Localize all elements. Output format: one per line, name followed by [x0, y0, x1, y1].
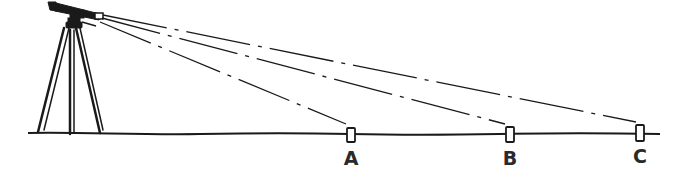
label-point-c: C — [633, 147, 647, 166]
rod-a — [347, 128, 355, 142]
rod-b — [506, 127, 514, 142]
sight-line-b — [102, 18, 505, 124]
sight-lines — [100, 15, 636, 124]
tripod — [38, 28, 103, 134]
rod-c — [636, 125, 644, 141]
surveying-diagram: A B C — [0, 0, 673, 178]
label-point-b: B — [503, 149, 517, 168]
ground-line — [28, 133, 660, 135]
sight-line-c — [103, 15, 636, 122]
label-point-a: A — [344, 149, 359, 168]
level-instrument-icon — [48, 2, 103, 28]
